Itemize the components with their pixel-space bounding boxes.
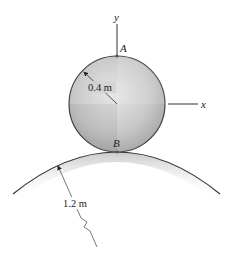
disk-sheen — [117, 56, 165, 104]
surface-shading — [13, 152, 220, 200]
point-b-label: B — [113, 137, 120, 149]
point-a-label: A — [119, 42, 127, 54]
curved-surface — [13, 152, 220, 200]
surface-radius-label: 1.2 m — [63, 198, 87, 209]
surface-radius-dimension: 1.2 m — [58, 166, 97, 247]
point-a-marker — [115, 54, 118, 57]
disk-radius-label: 0.4 m — [88, 82, 112, 93]
rolling-disk-diagram: 1.2 m 0.4 m y x A B — [0, 0, 229, 257]
point-b-marker — [115, 150, 118, 153]
x-axis-label: x — [200, 98, 206, 110]
y-axis-label: y — [113, 11, 119, 23]
